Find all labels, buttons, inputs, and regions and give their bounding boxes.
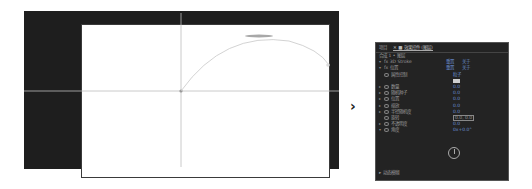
stopwatch-icon[interactable] [384,128,389,132]
stopwatch-icon[interactable] [384,104,389,108]
stopwatch-icon[interactable] [384,91,389,95]
chevron-right-icon: › [350,98,356,114]
stopwatch-icon[interactable] [384,122,389,126]
tab-effect-controls[interactable]: ✕ ■ 效果控件 (图层) [393,45,433,51]
crosshair-value[interactable]: 0.0, 0.0 [453,115,474,121]
motion-path [181,40,329,91]
angle-dial[interactable] [448,147,460,159]
path-endpoint [326,63,330,67]
keyframe-cluster [245,35,273,38]
stopwatch-icon[interactable] [384,85,389,89]
panel-tabs: 项目 ✕ ■ 效果控件 (图层) [376,43,508,53]
composition-viewer[interactable] [24,11,339,169]
stopwatch-icon[interactable] [384,110,389,114]
stopwatch-icon[interactable] [384,116,389,120]
viewer-overlay [24,11,339,169]
tab-project[interactable]: 项目 [379,45,387,51]
property-row[interactable]: ▾角度0x+0.0° [376,127,508,133]
motion-blur-row[interactable]: ▸ 动态模糊 [379,170,399,176]
stopwatch-icon[interactable] [384,97,389,101]
color-swatch[interactable] [453,79,460,83]
effect-controls-panel: 项目 ✕ ■ 效果控件 (图层) 合成 1 • 图层 ▾fx 3D Stroke… [375,42,509,181]
stopwatch-icon[interactable] [384,73,389,77]
